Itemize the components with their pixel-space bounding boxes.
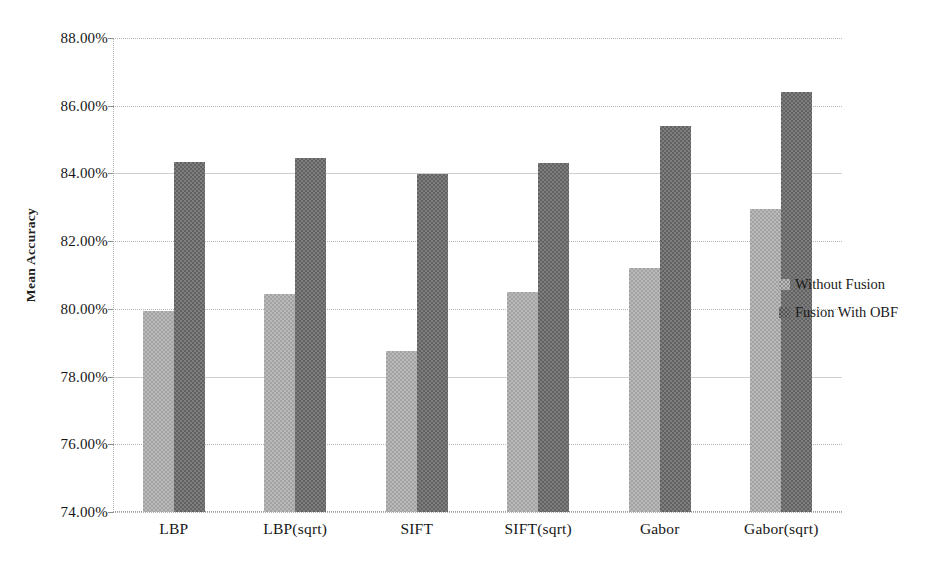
bar [417, 174, 448, 512]
legend-label: Fusion With OBF [795, 304, 898, 321]
gridline [113, 512, 842, 513]
bar [538, 163, 569, 512]
bar-group [264, 38, 326, 512]
x-tick-label: LBP(sqrt) [263, 520, 327, 538]
x-tick-label: Gabor(sqrt) [744, 520, 819, 538]
y-tick-label: 74.00% [12, 504, 108, 521]
bar-group [386, 38, 448, 512]
y-tick-label: 84.00% [12, 165, 108, 182]
bar-group [629, 38, 691, 512]
bar-group [507, 38, 569, 512]
y-axis-tick-labels: 88.00%86.00%84.00%82.00%80.00%78.00%76.0… [8, 0, 108, 576]
bar [174, 162, 205, 512]
y-tick-label: 80.00% [12, 300, 108, 317]
x-tick-label: SIFT [400, 520, 433, 538]
x-tick-label: SIFT(sqrt) [505, 520, 572, 538]
y-tick-label: 82.00% [12, 233, 108, 250]
y-tick-mark [108, 512, 114, 513]
y-tick-label: 78.00% [12, 368, 108, 385]
bar [660, 126, 691, 512]
bar [750, 209, 781, 512]
bar-chart-figure: Mean Accuracy 88.00%86.00%84.00%82.00%80… [0, 0, 949, 576]
legend-item[interactable]: Fusion With OBF [779, 300, 945, 324]
plot-area [113, 38, 842, 512]
y-tick-label: 88.00% [12, 30, 108, 47]
legend-item[interactable]: Without Fusion [779, 272, 945, 296]
bars-layer [113, 38, 842, 512]
x-axis-tick-labels: LBPLBP(sqrt)SIFTSIFT(sqrt)GaborGabor(sqr… [113, 520, 842, 554]
legend-label: Without Fusion [795, 276, 885, 293]
x-tick-label: LBP [159, 520, 188, 538]
y-tick-label: 86.00% [12, 97, 108, 114]
bar [264, 294, 295, 512]
legend-swatch-icon [779, 279, 790, 290]
bar-group [143, 38, 205, 512]
bar [143, 311, 174, 512]
bar [295, 158, 326, 512]
legend-swatch-icon [779, 307, 790, 318]
bar [629, 268, 660, 512]
x-tick-label: Gabor [640, 520, 680, 538]
y-tick-label: 76.00% [12, 436, 108, 453]
bar [507, 292, 538, 512]
chart-legend: Without FusionFusion With OBF [779, 272, 945, 328]
bar [386, 351, 417, 512]
